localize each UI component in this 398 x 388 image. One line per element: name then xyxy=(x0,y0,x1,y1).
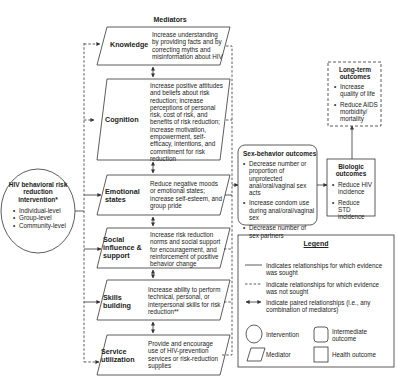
mediator-skills-label[interactable]: Skills building xyxy=(103,294,143,310)
mediator-skills-desc: Increase ability to perform technical, p… xyxy=(148,286,224,315)
legend-health-text: Health outcome xyxy=(332,351,388,358)
sex-behavior-item: Increase condom use during anal/oral/vag… xyxy=(243,199,316,221)
mediator-emotional-label[interactable]: Emotional states xyxy=(105,188,151,204)
intervention-list: Individual-level Group-level Community-l… xyxy=(13,207,73,229)
intervention-item: Community-level xyxy=(13,222,73,229)
intervention-item: Group-level xyxy=(13,214,73,221)
mediator-cognition-label[interactable]: Cognition xyxy=(105,116,151,124)
mediator-emotional-desc: Reduce negative moods or emotional state… xyxy=(150,180,224,209)
legend-mediator-text: Mediator xyxy=(266,351,310,358)
mediator-knowledge-desc: Increase understanding by providing fact… xyxy=(152,31,226,60)
long-term-item: Reduce AIDS morbidity/ mortality xyxy=(334,101,380,123)
mediator-service-desc: Provide and encourage use of HIV-prevent… xyxy=(148,340,222,369)
biologic-item: Reduce STD incidence xyxy=(332,199,374,221)
legend-intermediate-text: Intermediate outcome xyxy=(332,328,388,343)
biologic-title: Biologic outcomes xyxy=(328,163,374,178)
long-term-item: Increase quality of life xyxy=(334,83,380,98)
legend-dashed-text: Indicate relationships for which evidenc… xyxy=(266,281,390,296)
mediator-social-label[interactable]: Social influence & support xyxy=(103,236,149,260)
sex-behavior-title: Sex-behavior outcomes xyxy=(243,150,317,157)
legend-health-shape xyxy=(314,347,328,362)
sex-behavior-item: Decrease number or proportion of unprote… xyxy=(243,160,316,196)
legend-title: Legend xyxy=(238,240,394,247)
legend-paired-text: Indicate paired relationships (i.e., any… xyxy=(266,299,390,314)
biologic-item: Reduce HIV incidence xyxy=(332,181,374,196)
biologic-list: Reduce HIV incidence Reduce STD incidenc… xyxy=(332,181,374,223)
mediator-service-label[interactable]: Service utilization xyxy=(101,348,147,364)
mediator-cognition-desc: Increase positive attitudes and beliefs … xyxy=(150,82,224,162)
long-term-list: Increase quality of life Reduce AIDS mor… xyxy=(334,83,380,125)
legend-intermediate-shape xyxy=(314,327,328,342)
mediators-title: Mediators xyxy=(130,16,210,23)
sex-behavior-item: Decrease number of sex partners xyxy=(243,224,316,239)
intervention-item: Individual-level xyxy=(13,207,73,214)
legend-intervention-shape xyxy=(246,325,262,343)
legend-solid-text: Indicates relationships for which eviden… xyxy=(266,262,390,277)
long-term-title: Long-term outcomes xyxy=(330,66,380,81)
legend-intervention-text: Intervention xyxy=(266,331,310,338)
mediator-social-desc: Increase risk reduction norms and social… xyxy=(150,231,224,267)
intervention-title: HIV behavioral risk reduction interventi… xyxy=(6,181,70,203)
sex-behavior-list: Decrease number or proportion of unprote… xyxy=(243,160,316,242)
